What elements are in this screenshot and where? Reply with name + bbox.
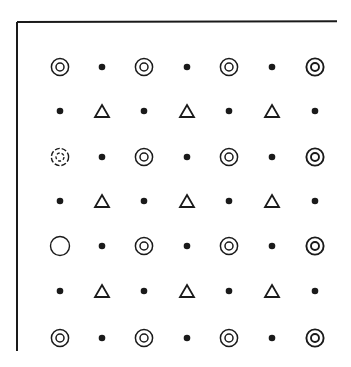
filled-dot-icon [139, 196, 149, 206]
filled-dot-icon [97, 152, 107, 162]
filled-dot-icon [182, 62, 192, 72]
concentric-circle-icon [304, 56, 326, 78]
open-triangle-icon [178, 193, 196, 209]
concentric-circle-icon [133, 146, 155, 168]
open-triangle-icon [263, 103, 281, 119]
concentric-circle-icon [218, 327, 240, 349]
open-circle-icon [48, 234, 72, 258]
filled-dot-icon [97, 333, 107, 343]
lattice-diagram [0, 0, 351, 367]
filled-dot-icon [224, 196, 234, 206]
concentric-circle-icon [218, 235, 240, 257]
concentric-circle-icon [49, 56, 71, 78]
open-triangle-icon [93, 193, 111, 209]
frame-top-border [17, 20, 337, 23]
open-triangle-icon [93, 283, 111, 299]
filled-dot-icon [182, 152, 192, 162]
filled-dot-icon [182, 241, 192, 251]
open-triangle-icon [263, 193, 281, 209]
filled-dot-icon [97, 62, 107, 72]
concentric-circle-icon [133, 327, 155, 349]
filled-dot-icon [267, 333, 277, 343]
filled-dot-icon [139, 106, 149, 116]
filled-dot-icon [139, 286, 149, 296]
filled-dot-icon [55, 106, 65, 116]
concentric-circle-icon [49, 327, 71, 349]
concentric-circle-icon [133, 235, 155, 257]
open-triangle-icon [178, 283, 196, 299]
filled-dot-icon [310, 106, 320, 116]
filled-dot-icon [267, 241, 277, 251]
concentric-circle-icon [304, 146, 326, 168]
filled-dot-icon [310, 196, 320, 206]
filled-dot-icon [55, 286, 65, 296]
filled-dot-icon [224, 286, 234, 296]
open-triangle-icon [93, 103, 111, 119]
filled-dot-icon [182, 333, 192, 343]
concentric-circle-icon [304, 327, 326, 349]
filled-dot-icon [267, 62, 277, 72]
concentric-circle-icon [133, 56, 155, 78]
filled-dot-icon [55, 196, 65, 206]
filled-dot-icon [267, 152, 277, 162]
filled-dot-icon [97, 241, 107, 251]
dashed-concentric-circle-icon [49, 146, 71, 168]
concentric-circle-icon [218, 146, 240, 168]
open-triangle-icon [178, 103, 196, 119]
frame-left-border [16, 22, 18, 351]
filled-dot-icon [310, 286, 320, 296]
concentric-circle-icon [218, 56, 240, 78]
filled-dot-icon [224, 106, 234, 116]
concentric-circle-icon [304, 235, 326, 257]
open-triangle-icon [263, 283, 281, 299]
